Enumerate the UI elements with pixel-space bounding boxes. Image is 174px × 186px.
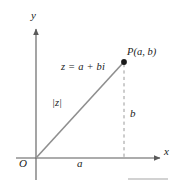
modulus-vector [36,64,123,159]
point-p-marker [121,59,127,65]
origin-label: O [19,158,27,169]
real-part-label: a [77,158,83,169]
point-p-label: P(a, b) [127,47,156,58]
y-axis-label: y [31,10,36,21]
complex-number-label: z = a + bi [61,62,105,73]
argand-diagram-figure: y x O P(a, b) z = a + bi |z| a b [0,0,174,186]
modulus-label: |z| [52,98,62,109]
imaginary-part-label: b [130,108,136,119]
x-axis-label: x [164,146,169,157]
